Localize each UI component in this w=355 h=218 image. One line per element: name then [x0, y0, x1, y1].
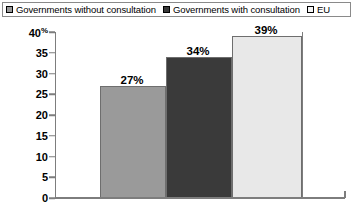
- bar-eu: [232, 36, 302, 198]
- plot-area: [55, 32, 303, 198]
- y-tick-label-15: 15: [0, 130, 48, 141]
- y-tick-label-0: 0: [0, 193, 48, 204]
- y-tick-label-20: 20: [0, 110, 48, 121]
- bar-chart: Governments without consultation Governm…: [0, 0, 355, 218]
- y-tick-label-35: 35: [0, 47, 48, 58]
- legend-item-eu: EU: [307, 5, 330, 15]
- y-tick-label-40: 40%: [0, 25, 48, 40]
- legend-item-governments-without-consultation: Governments without consultation: [6, 5, 156, 15]
- legend-item-governments-with-consultation: Governments with consultation: [163, 5, 300, 15]
- chart-legend: Governments without consultation Governm…: [2, 2, 351, 17]
- bar-governments-without-consultation: [100, 86, 166, 198]
- filled-square-icon: [163, 6, 170, 13]
- legend-label: EU: [317, 5, 330, 15]
- bar-value-label-3: 39%: [254, 24, 277, 36]
- filled-square-icon: [307, 6, 314, 13]
- y-tick-label-25: 25: [0, 89, 48, 100]
- percent-symbol: %: [41, 26, 48, 35]
- filled-square-icon: [6, 6, 13, 13]
- y-axis: 40% 35 30 25 20 15 10 5 0: [0, 32, 48, 198]
- y-tick-label-10: 10: [0, 151, 48, 162]
- y-tick-label-30: 30: [0, 68, 48, 79]
- bar-value-label-1: 27%: [120, 74, 143, 86]
- x-axis-baseline: [55, 197, 345, 199]
- bar-value-label-2: 34%: [186, 45, 209, 57]
- y-tick-label-5: 5: [0, 172, 48, 183]
- bar-governments-with-consultation: [166, 57, 232, 198]
- legend-label: Governments with consultation: [173, 5, 300, 15]
- legend-label: Governments without consultation: [16, 5, 156, 15]
- x-axis-end-tick: [344, 191, 346, 198]
